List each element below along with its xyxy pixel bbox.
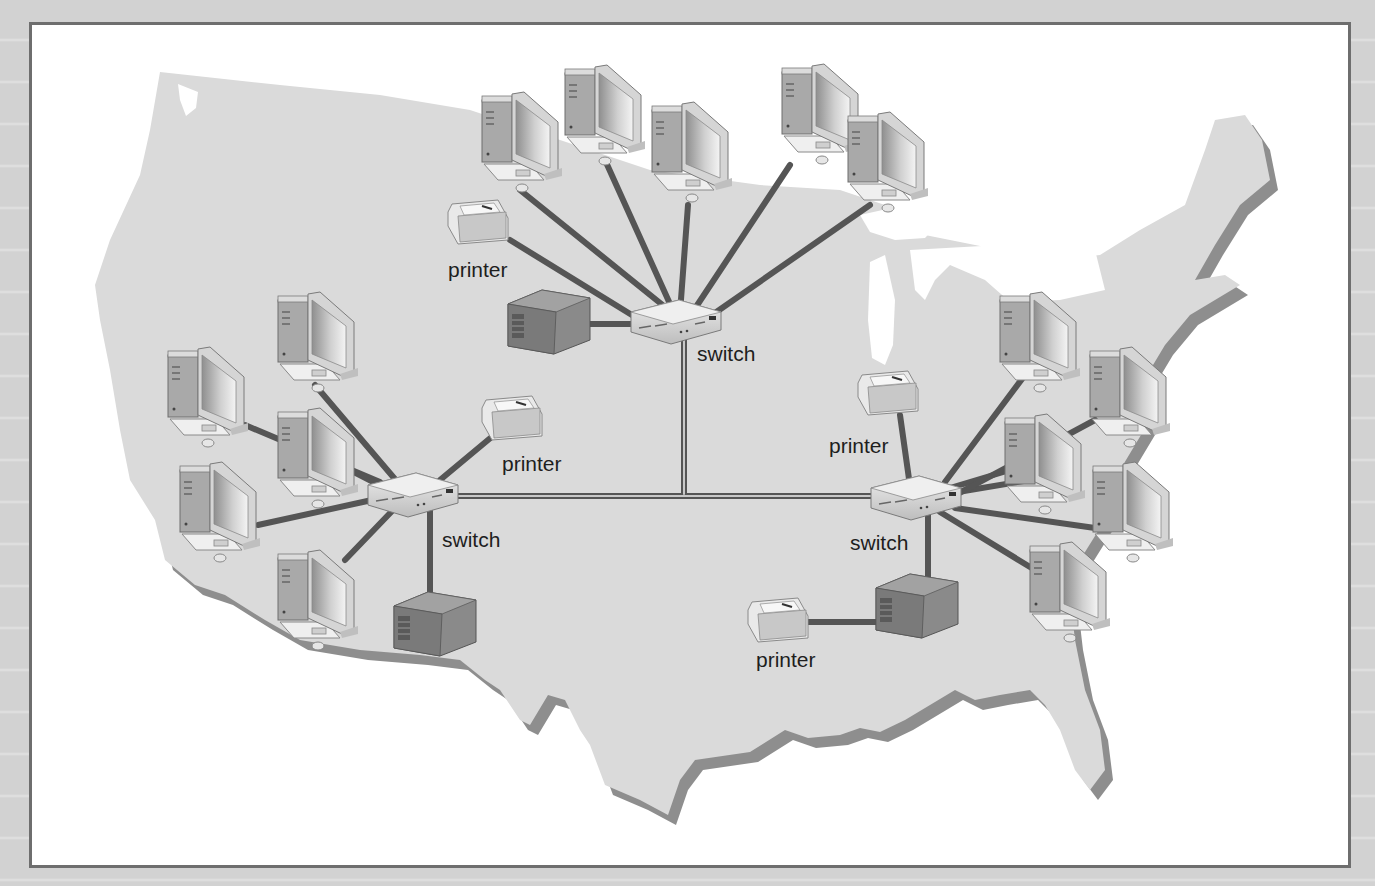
- label-printer-west: printer: [502, 452, 562, 475]
- label-switch-center: switch: [697, 342, 755, 365]
- label-switch-west: switch: [442, 528, 500, 551]
- label-printer-east-bottom: printer: [756, 648, 816, 671]
- server-center: [508, 290, 590, 354]
- server-east: [876, 574, 958, 638]
- label-switch-east: switch: [850, 531, 908, 554]
- printer-west: [482, 396, 542, 440]
- printer-center: [448, 200, 508, 244]
- network-diagram: printer switch printer switch printer sw…: [0, 0, 1375, 886]
- printer-east-bottom: [748, 598, 808, 642]
- server-west: [394, 592, 476, 656]
- printer-east-top: [858, 371, 918, 415]
- label-printer-east-top: printer: [829, 434, 889, 457]
- workstation-e4: [1093, 462, 1173, 562]
- label-printer-center: printer: [448, 258, 508, 281]
